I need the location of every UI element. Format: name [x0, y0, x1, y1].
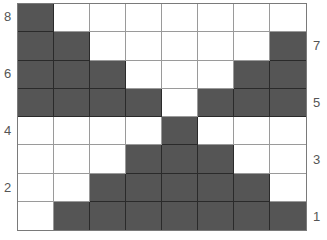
- grid-cell: [198, 61, 234, 89]
- grid-cell: [126, 61, 162, 89]
- grid-cell: [90, 145, 126, 173]
- grid-cell: [54, 32, 90, 60]
- grid-cell: [234, 145, 270, 173]
- grid-cell: [54, 61, 90, 89]
- pixel-grid: [17, 3, 307, 231]
- grid-cell: [18, 145, 54, 173]
- row-label-left: 6: [4, 66, 11, 81]
- row-label-right: 1: [313, 209, 320, 224]
- grid-cell: [198, 174, 234, 202]
- grid-cell: [162, 4, 198, 32]
- grid-cell: [270, 89, 306, 117]
- grid-cell: [18, 32, 54, 60]
- grid-cell: [54, 4, 90, 32]
- row-label-right: 5: [313, 95, 320, 110]
- row-label-left: 2: [4, 180, 11, 195]
- grid-cell: [90, 89, 126, 117]
- grid-cell: [162, 117, 198, 145]
- grid-cell: [162, 174, 198, 202]
- grid-cell: [162, 145, 198, 173]
- row-label-right: 7: [313, 38, 320, 53]
- grid-cell: [90, 32, 126, 60]
- grid-cell: [234, 32, 270, 60]
- grid-cell: [90, 117, 126, 145]
- grid-cell: [234, 61, 270, 89]
- grid-cell: [198, 202, 234, 230]
- grid-cell: [162, 202, 198, 230]
- grid-cell: [270, 145, 306, 173]
- row-label-left: 4: [4, 123, 11, 138]
- grid-cell: [126, 174, 162, 202]
- grid-cell: [18, 117, 54, 145]
- grid-cell: [54, 89, 90, 117]
- grid-cell: [198, 4, 234, 32]
- grid-cell: [54, 145, 90, 173]
- grid-cell: [90, 61, 126, 89]
- grid-cell: [126, 32, 162, 60]
- grid-cell: [234, 174, 270, 202]
- grid-cell: [54, 117, 90, 145]
- grid-cell: [162, 32, 198, 60]
- grid-cell: [270, 4, 306, 32]
- grid-cell: [270, 32, 306, 60]
- grid-cell: [198, 145, 234, 173]
- grid-cell: [234, 202, 270, 230]
- grid-cell: [126, 202, 162, 230]
- grid-cell: [18, 202, 54, 230]
- grid-cell: [18, 4, 54, 32]
- grid-cell: [90, 4, 126, 32]
- grid-cell: [270, 202, 306, 230]
- grid-cell: [126, 145, 162, 173]
- row-label-right: 3: [313, 152, 320, 167]
- grid-cell: [234, 4, 270, 32]
- grid-cell: [162, 89, 198, 117]
- grid-cell: [90, 174, 126, 202]
- grid-cell: [270, 61, 306, 89]
- grid-cell: [54, 174, 90, 202]
- grid-cell: [126, 4, 162, 32]
- grid-cell: [198, 117, 234, 145]
- grid-cell: [198, 89, 234, 117]
- grid-cell: [18, 89, 54, 117]
- row-label-left: 8: [4, 9, 11, 24]
- grid-cell: [162, 61, 198, 89]
- grid-cell: [126, 89, 162, 117]
- grid-cell: [270, 117, 306, 145]
- grid-cell: [234, 89, 270, 117]
- grid-cell: [270, 174, 306, 202]
- grid-cell: [234, 117, 270, 145]
- grid-cell: [18, 61, 54, 89]
- grid-cell: [18, 174, 54, 202]
- grid-cell: [90, 202, 126, 230]
- grid-cell: [198, 32, 234, 60]
- grid-cell: [126, 117, 162, 145]
- grid-cell: [54, 202, 90, 230]
